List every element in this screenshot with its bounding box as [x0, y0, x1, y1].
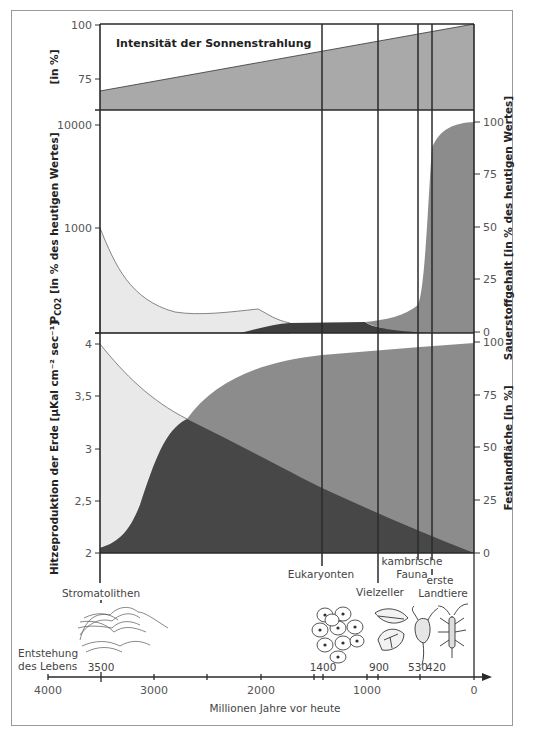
entstehung-label-1: Entstehung	[18, 647, 78, 659]
fauna-label: Fauna	[396, 568, 427, 580]
x-axis-arrow-icon	[482, 673, 492, 681]
co2-tick-10000: 10000	[57, 119, 92, 132]
stromatolithen-label: Stromatolithen	[62, 587, 140, 599]
land-tick-0: 0	[483, 547, 490, 560]
sun-ylabel: [in %]	[48, 50, 60, 85]
x-tick-2000: 2000	[247, 684, 275, 697]
x-tick-1000: 1000	[353, 684, 381, 697]
oxygen-area	[365, 122, 474, 333]
vielzeller-label: Vielzeller	[356, 586, 405, 598]
heat-tick-2-5: 2,5	[75, 495, 93, 508]
o2-tick-100: 100	[483, 116, 504, 129]
chart-svg: Intensität der Sonnenstrahlung 100 75 [i…	[0, 0, 533, 737]
landtiere-label: Landtiere	[418, 587, 468, 599]
sun-panel-title: Intensität der Sonnenstrahlung	[116, 37, 311, 50]
erste-label: erste	[427, 574, 454, 586]
land-tick-50: 50	[483, 441, 497, 454]
earth-panel: 4 3,5 3 2,5 2 Hitzeproduktion der Erde […	[48, 321, 514, 575]
atmosphere-panel: 10000 1000 PCO2 [in % des heutigen Werte…	[48, 96, 514, 360]
land-tick-25: 25	[483, 494, 497, 507]
heat-ylabel: Hitzeproduktion der Erde [µKal cm⁻² sec⁻…	[48, 321, 60, 575]
o2-ylabel: Sauerstoffgehalt [in % des heutigen Wert…	[502, 96, 514, 360]
entstehung-label-2: des Lebens	[18, 660, 77, 672]
x-tick-3000: 3000	[140, 684, 168, 697]
heat-tick-2: 2	[85, 547, 92, 560]
land-ylabel: Festlandfläche [in %]	[502, 385, 514, 510]
x-tick-4000: 4000	[34, 684, 62, 697]
year-1400: 1400	[310, 661, 337, 673]
co2-area	[100, 228, 290, 333]
land-tick-75: 75	[483, 389, 497, 402]
co2-tick-1000: 1000	[64, 222, 92, 235]
x-tick-0: 0	[471, 684, 478, 697]
eukaryote-cells-illustration	[312, 607, 364, 663]
eukaryonten-label: Eukaryonten	[288, 568, 354, 580]
year-420: 420	[426, 661, 446, 673]
sun-tick-100: 100	[71, 19, 92, 32]
x-axis-label: Millionen Jahre vor heute	[210, 702, 341, 714]
year-3500: 3500	[88, 661, 115, 673]
heat-tick-3-5: 3,5	[75, 390, 93, 403]
cambrian-fauna-illustration	[412, 606, 438, 665]
land-tick-100: 100	[483, 336, 504, 349]
multicellular-illustration	[375, 609, 408, 650]
heat-tick-4: 4	[85, 338, 92, 351]
stromatolite-illustration	[78, 607, 168, 652]
year-900: 900	[369, 661, 389, 673]
land-animal-illustration	[438, 604, 468, 658]
o2-tick-50: 50	[483, 221, 497, 234]
sun-tick-75: 75	[78, 73, 92, 86]
o2-tick-25: 25	[483, 273, 497, 286]
kambrische-label: kambrische	[382, 555, 443, 567]
co2-ylabel: PCO2 [in % des heutigen Wertes]	[48, 132, 63, 323]
heat-tick-3: 3	[85, 443, 92, 456]
sun-panel: Intensität der Sonnenstrahlung 100 75 [i…	[48, 19, 474, 110]
o2-tick-75: 75	[483, 168, 497, 181]
